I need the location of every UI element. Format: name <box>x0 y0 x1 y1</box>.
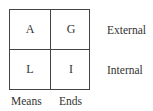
cell-integration: I <box>51 50 91 89</box>
row-label-external: External <box>107 24 146 36</box>
cell-latency: L <box>10 50 50 89</box>
cell-adaptation: A <box>10 10 50 49</box>
row-label-internal: Internal <box>107 64 143 76</box>
cell-goal-attainment: G <box>51 10 91 49</box>
column-label-means: Means <box>11 95 42 107</box>
agil-grid: A G L I <box>9 9 90 90</box>
column-label-ends: Ends <box>59 95 82 107</box>
